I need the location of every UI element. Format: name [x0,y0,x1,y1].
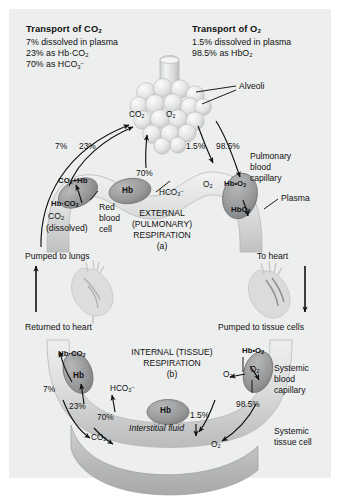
co2-fact-2: 23% as Hb·CO2 [26,49,88,59]
heading-transport-o2: Transport of O2 [192,24,261,35]
heart-left [71,260,113,324]
label-hb-co2-bottom: Hb·CO2 [58,350,86,359]
label-rbc-1: Red [99,203,115,213]
label-returned-to-heart: Returned to heart [25,323,92,333]
label-pulmonary-capillary-1: Pulmonary [250,152,291,162]
label-alveolar-co2: CO2 [129,110,144,119]
pct-bottom-70: 70% [97,413,114,422]
pct-top-985: 98.5% [216,142,240,151]
label-pumped-to-tissue: Pumped to tissue cells [218,323,304,333]
heart-right [248,261,290,318]
caption-internal-2: RESPIRATION [122,359,222,369]
heading-transport-co2: Transport of CO2 [26,24,102,35]
pct-top-7: 7% [55,142,67,151]
caption-internal-letter: (b) [122,370,222,380]
label-hco3-top: HCO3– [159,188,183,198]
caption-external-3: RESPIRATION [120,231,204,241]
label-systemic-tissue-2: tissue cell [274,438,312,448]
label-o2-plasma-top: O2 [203,180,212,189]
label-plasma: Plasma [281,194,310,204]
label-to-heart: To heart [257,252,288,262]
pct-top-15: 1.5% [186,142,205,151]
pct-bottom-7: 7% [43,385,55,394]
pct-bottom-985: 98.5% [236,400,260,409]
label-systemic-capillary-3: capillary [274,386,306,396]
label-interstitial-fluid: Interstitial fluid [129,424,184,434]
caption-external-1: EXTERNAL [120,209,204,219]
pct-top-70: 70% [136,169,153,178]
caption-internal-1: INTERNAL (TISSUE) [122,348,222,358]
caption-external-letter: (a) [120,242,204,252]
o2-fact-2: 98.5% as HbO2 [192,49,252,59]
label-hb-dot-o2-bottom: Hb•O2 [242,347,264,356]
label-co2-plus-hb: CO2+Hb [58,177,88,186]
o2-fact-1: 1.5% dissolved in plasma [192,38,291,48]
label-o2-plasma-bottom: O2 [223,370,232,379]
label-systemic-capillary-2: blood [274,375,295,385]
co2-fact-3: 70% as HCO3– [26,60,84,70]
label-pulmonary-capillary-3: capillary [250,174,282,184]
label-alveoli: Alveoli [239,82,264,92]
label-rbc-3: cell [99,225,112,235]
label-o2-tissue: O2 [211,440,220,449]
co2-fact-1: 7% dissolved in plasma [26,38,118,48]
label-alveolar-o2: O2 [166,110,175,119]
label-co2-dissolved-2: (dissolved) [46,224,88,234]
label-hb-top: Hb [122,186,133,195]
pct-bottom-23: 23% [69,402,86,411]
label-hb-bottom-center: Hb [160,406,171,415]
label-systemic-tissue-1: Systemic [274,427,309,437]
label-hbo2-top: HbO2 [231,206,250,215]
label-co2-dissolved-1: CO2 [48,212,64,222]
pct-bottom-15: 1.5% [190,411,209,420]
figure-canvas: Transport of CO2 7% dissolved in plasma … [0,0,340,496]
label-pulmonary-capillary-2: blood [250,163,271,173]
label-hb-dot-o2-top: Hb•O2 [224,180,246,189]
label-systemic-capillary-1: Systemic [274,364,309,374]
label-hco3-bottom: HCO3– [110,384,134,394]
label-rbc-2: blood [99,214,120,224]
label-o2-rbc-bottom: O2 [250,365,259,374]
label-hb-co2-top: Hb·CO2 [51,200,79,209]
label-co2-tissue: CO2 [91,433,106,442]
alveoli-cluster [130,56,212,155]
label-hb-bottom-left: Hb [73,371,84,380]
pct-top-23: 23% [79,142,96,151]
label-pumped-to-lungs: Pumped to lungs [25,252,90,262]
caption-external-2: (PULMONARY) [120,220,204,230]
